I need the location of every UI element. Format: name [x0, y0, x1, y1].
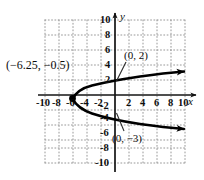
y-tick-label--10: -10 — [95, 157, 109, 168]
y-tick-label-8: 8 — [105, 29, 110, 40]
x-tick-label-4: 4 — [140, 97, 145, 108]
vertex-annotation-label: (−6.25, −0.5) — [6, 58, 70, 73]
x-tick-label-8: 8 — [168, 97, 173, 108]
y-tick-label-6: 6 — [105, 44, 110, 55]
y-tick-label--4: -4 — [100, 112, 109, 123]
x-tick-label-2: 2 — [126, 97, 131, 108]
y-tick-label--2: -2 — [100, 100, 109, 111]
coordinate-plane-svg — [0, 0, 204, 180]
y-tick-label-2: 2 — [105, 74, 110, 85]
y-axis-name-label: y — [120, 10, 125, 22]
graph-figure: (−6.25, −0.5) (0, 2) (0, −3) x y -10 -8 … — [0, 0, 204, 180]
y-tick-label--8: -8 — [100, 142, 109, 153]
x-axis-name-label: x — [188, 95, 193, 107]
lower-intercept-annotation-label: (0, −3) — [112, 132, 142, 144]
upper-intercept-annotation-label: (0, 2) — [124, 49, 148, 61]
y-tick-label-10: 10 — [100, 14, 111, 25]
y-tick-label-4: 4 — [105, 59, 110, 70]
x-tick-label--8: -8 — [52, 97, 61, 108]
x-tick-label--4: -4 — [80, 97, 89, 108]
x-tick-label-6: 6 — [154, 97, 159, 108]
x-tick-label--6: -6 — [66, 97, 75, 108]
x-tick-label--10: -10 — [36, 97, 50, 108]
x-tick-label-10: 10 — [178, 97, 189, 108]
y-tick-label--6: -6 — [100, 127, 109, 138]
